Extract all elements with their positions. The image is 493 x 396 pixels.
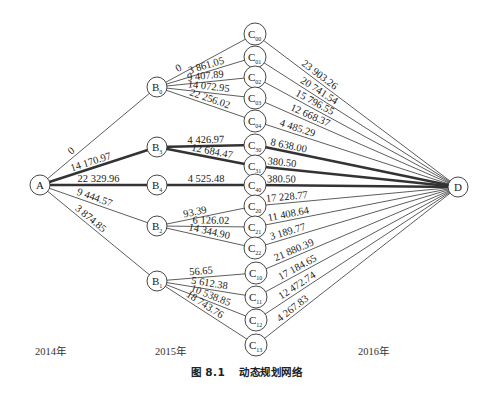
edge-weight-c22-d: 3 189.77 (268, 221, 306, 242)
node-c40: C40 (244, 174, 266, 196)
node-label: A (36, 179, 44, 191)
node-c03: C03 (244, 87, 266, 109)
edge-a-b0 (40, 87, 157, 185)
node-c02: C02 (244, 66, 266, 88)
edge-c40-d (255, 185, 458, 187)
node-c10: C10 (245, 262, 267, 284)
edge-weight-a-b4: 22 329.96 (78, 173, 120, 184)
node-c13: C13 (245, 334, 267, 356)
node-b2: B2 (147, 216, 167, 236)
dynamic-programming-network: 014 170.9722 329.969 444.573 874.8503 86… (0, 0, 493, 396)
node-c21: C21 (244, 216, 266, 238)
stage-label-2015: 2015年 (155, 343, 186, 358)
edge-c11-d (256, 187, 458, 297)
node-c30: C30 (244, 134, 266, 156)
node-b1: B1 (147, 271, 167, 291)
node-d: D (448, 177, 468, 197)
node-label: D (454, 181, 462, 193)
figure-title: 动态规划网络 (239, 366, 302, 378)
edge-weight-c40-d: 380.50 (267, 173, 296, 184)
edge-labels-layer: 014 170.9722 329.969 444.573 874.8503 86… (65, 55, 340, 324)
node-b0: B0 (147, 77, 167, 97)
figure-caption: 图 8.1动态规划网络 (0, 364, 493, 379)
node-c04: C04 (244, 110, 266, 132)
edge-weight-b0-c00: 0 (174, 62, 184, 74)
node-c11: C11 (245, 286, 267, 308)
figure-number: 图 8.1 (191, 366, 226, 378)
edge-c02-d (255, 77, 458, 187)
node-a: A (30, 175, 50, 195)
nodes-layer: AB0B3B4B2B1C00C01C02C03C04C30C31C40C20C2… (30, 23, 468, 356)
node-c12: C12 (245, 309, 267, 331)
node-c22: C22 (244, 237, 266, 259)
node-b3: B3 (147, 137, 167, 157)
stage-label-2014: 2014年 (35, 343, 66, 358)
edge-weight-b4-c40: 4 525.48 (188, 173, 225, 184)
stage-label-2016: 2016年 (358, 343, 389, 358)
node-c01: C01 (244, 46, 266, 68)
node-b4: B4 (147, 175, 167, 195)
edge-weight-a-b0: 0 (65, 145, 76, 157)
node-c20: C20 (244, 195, 266, 217)
node-c00: C00 (244, 23, 266, 45)
